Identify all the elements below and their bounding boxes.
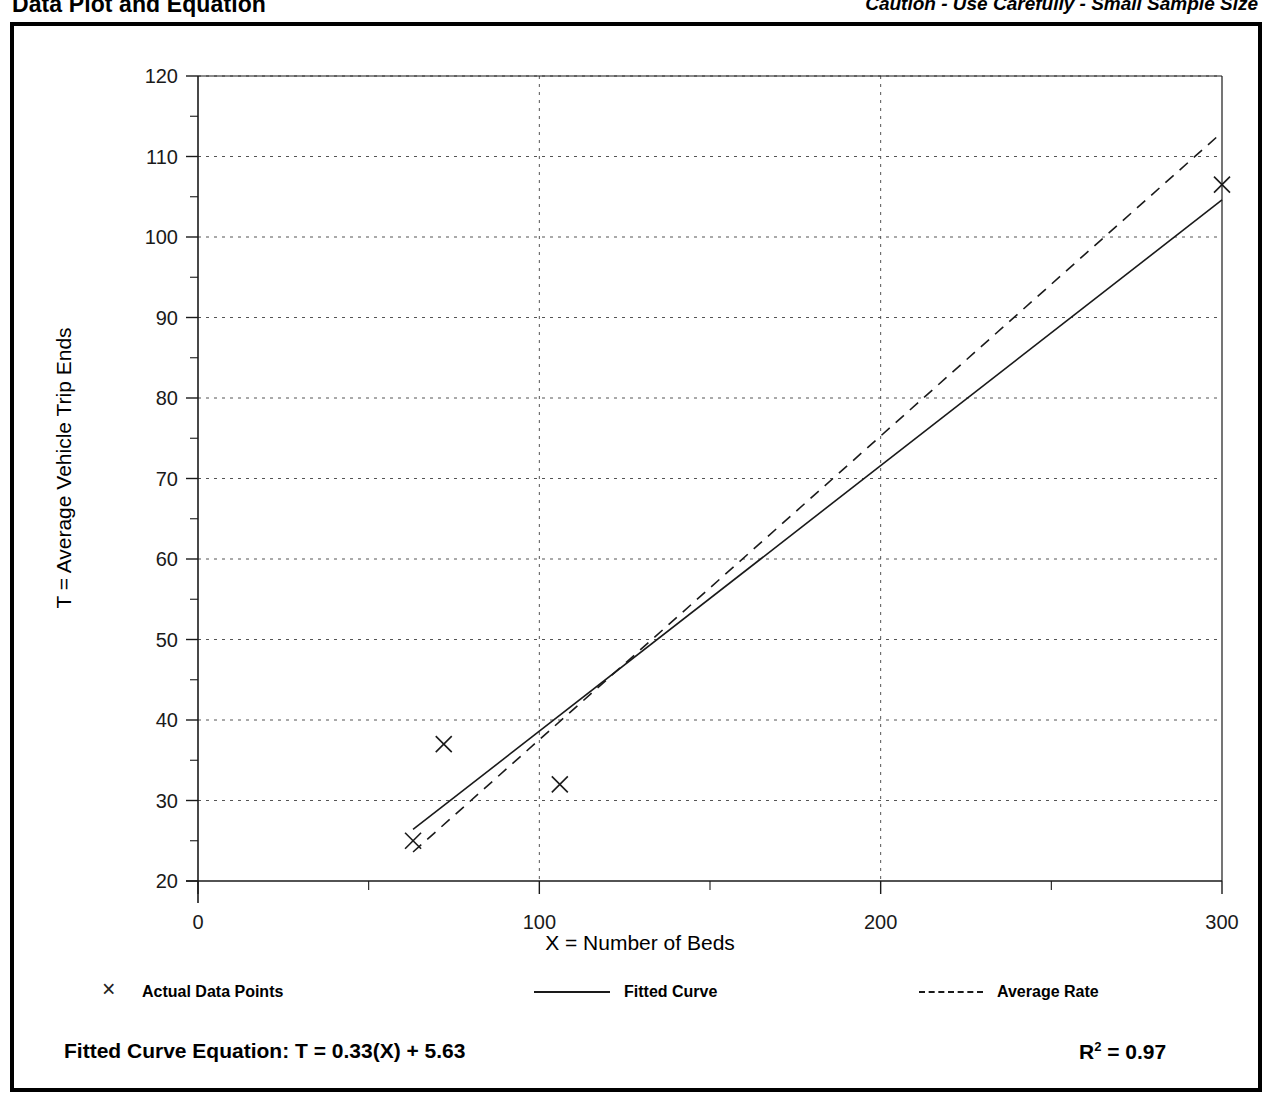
axis-lines [186, 76, 1222, 903]
y-tick-label: 110 [146, 146, 178, 168]
y-tick-label: 20 [156, 870, 178, 892]
y-tick-label: 50 [156, 629, 178, 651]
y-tick-label: 90 [156, 307, 178, 329]
r-squared-number: = 0.97 [1101, 1040, 1166, 1063]
x-tick-label: 200 [864, 911, 897, 933]
x-tick-label: 100 [523, 911, 556, 933]
legend-label-average: Average Rate [997, 983, 1099, 1001]
chart-legend: Actual Data Points Fitted Curve Average … [14, 978, 1266, 1018]
legend-label-fitted: Fitted Curve [624, 983, 717, 1001]
caution-note: Caution - Use Carefully - Small Sample S… [865, 0, 1258, 15]
r-squared-base: R [1079, 1040, 1094, 1063]
chart-panel: 20304050607080901001101200100200300 T = … [10, 22, 1262, 1092]
average-rate-line [413, 132, 1222, 852]
y-tick-label: 100 [145, 226, 178, 248]
data-series [405, 132, 1230, 852]
page-title: Data Plot and Equation [12, 0, 266, 18]
fitted-curve-equation: Fitted Curve Equation: T = 0.33(X) + 5.6… [64, 1039, 465, 1063]
y-axis-title: T = Average Vehicle Trip Ends [52, 188, 76, 748]
axis-ticks [186, 76, 1222, 894]
legend-label-actual: Actual Data Points [142, 983, 283, 1001]
r-squared-value: R2 = 0.97 [1079, 1039, 1166, 1064]
legend-item-actual-data-points: Actual Data Points [102, 980, 283, 1004]
x-marker-icon [102, 984, 128, 1000]
y-tick-label: 60 [156, 548, 178, 570]
x-tick-label: 300 [1205, 911, 1238, 933]
y-tick-label: 80 [156, 387, 178, 409]
y-tick-label: 30 [156, 790, 178, 812]
x-tick-label: 0 [192, 911, 203, 933]
legend-item-fitted-curve: Fitted Curve [534, 980, 717, 1004]
fitted-curve-line [413, 200, 1222, 830]
tick-labels: 20304050607080901001101200100200300 [145, 65, 1239, 933]
page-header: Data Plot and Equation Caution - Use Car… [0, 0, 1272, 18]
y-tick-label: 120 [145, 65, 178, 87]
data-point-marker [552, 776, 568, 792]
x-axis-title: X = Number of Beds [14, 931, 1266, 955]
y-tick-label: 40 [156, 709, 178, 731]
equation-row: Fitted Curve Equation: T = 0.33(X) + 5.6… [14, 1031, 1266, 1081]
y-tick-label: 70 [156, 468, 178, 490]
legend-item-average-rate: Average Rate [919, 980, 1099, 1004]
data-point-marker [436, 736, 452, 752]
dashed-line-icon [919, 984, 983, 1000]
grid-lines [198, 76, 1222, 881]
solid-line-icon [534, 984, 610, 1000]
